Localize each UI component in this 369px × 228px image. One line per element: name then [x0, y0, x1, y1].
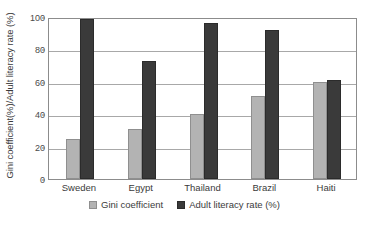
x-tick-label: Sweden: [62, 182, 96, 193]
bar: [128, 129, 142, 179]
bar: [327, 80, 341, 179]
bar-group: [190, 19, 218, 179]
legend-entry: Gini coefficient: [89, 199, 163, 210]
bar: [313, 82, 327, 179]
y-axis-title: Gini coefficient(%)/Adult literacy rate …: [0, 0, 18, 190]
chart-legend: Gini coefficientAdult literacy rate (%): [0, 199, 369, 210]
y-tick-mark: [42, 115, 45, 116]
legend-swatch-icon: [89, 201, 97, 209]
y-tick-mark: [42, 147, 45, 148]
y-tick-mark: [42, 18, 45, 19]
bar: [251, 96, 265, 179]
bar: [190, 114, 204, 179]
legend-label: Adult literacy rate (%): [189, 199, 280, 210]
x-tick-label: Egypt: [129, 182, 153, 193]
bar-group: [128, 19, 156, 179]
legend-swatch-icon: [177, 201, 185, 209]
bar-group: [313, 19, 341, 179]
plot-area: [48, 18, 357, 180]
legend-label: Gini coefficient: [101, 199, 163, 210]
x-tick-label: Haiti: [317, 182, 336, 193]
y-tick-mark: [42, 50, 45, 51]
x-tick-label: Thailand: [184, 182, 220, 193]
bar: [80, 19, 94, 179]
bar: [204, 23, 218, 179]
bar-group: [66, 19, 94, 179]
bar: [66, 139, 80, 180]
bar: [265, 30, 279, 179]
y-axis-tick-labels: 020406080100: [17, 0, 45, 228]
bar-group: [251, 19, 279, 179]
y-axis-title-text: Gini coefficient(%)/Adult literacy rate …: [4, 12, 15, 178]
x-tick-label: Brazil: [252, 182, 276, 193]
x-axis-tick-labels: SwedenEgyptThailandBrazilHaiti: [48, 182, 357, 198]
y-tick-mark: [42, 180, 45, 181]
legend-entry: Adult literacy rate (%): [177, 199, 280, 210]
y-tick-mark: [42, 82, 45, 83]
bar: [142, 61, 156, 179]
bars-layer: [49, 19, 356, 179]
bar-chart: Gini coefficient(%)/Adult literacy rate …: [0, 0, 369, 228]
